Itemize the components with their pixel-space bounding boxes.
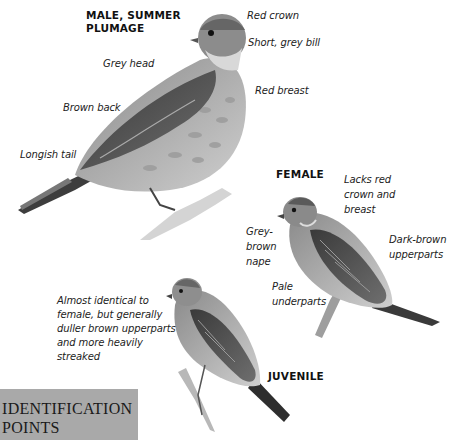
female-heading: FEMALE: [276, 168, 324, 181]
male-heading-line2: PLUMAGE: [86, 22, 144, 35]
identification-title-line2: POINTS: [2, 418, 132, 437]
juvenile-description-line3: duller brown upperparts: [57, 321, 176, 336]
juvenile-heading: JUVENILE: [268, 370, 324, 383]
label-brown-back: Brown back: [63, 100, 121, 115]
label-lacks-red-line1: Lacks red: [344, 172, 391, 187]
label-nape-line2: brown: [246, 239, 277, 254]
female-bird-illustration: [277, 197, 440, 338]
label-dark-brown-line2: upperparts: [389, 247, 443, 262]
male-heading-line1: MALE, SUMMER: [86, 9, 181, 22]
label-nape-line1: Grey-: [246, 224, 273, 239]
male-bird-illustration: [18, 14, 246, 240]
label-red-breast: Red breast: [255, 83, 309, 98]
label-short-grey-bill: Short, grey bill: [248, 35, 320, 50]
identification-points-box: IDENTIFICATION POINTS: [0, 389, 138, 440]
identification-title-line1: IDENTIFICATION: [2, 399, 132, 418]
label-lacks-red-line3: breast: [344, 202, 375, 217]
label-grey-head: Grey head: [103, 56, 154, 71]
juvenile-description-line1: Almost identical to: [57, 293, 149, 308]
label-dark-brown-line1: Dark-brown: [389, 232, 446, 247]
label-longish-tail: Longish tail: [20, 147, 76, 162]
juvenile-description-line4: and more heavily: [57, 335, 143, 350]
juvenile-description-line5: streaked: [57, 349, 100, 364]
label-red-crown: Red crown: [247, 8, 299, 23]
identification-points-title: IDENTIFICATION POINTS: [2, 399, 132, 437]
label-lacks-red-line2: crown and: [344, 187, 395, 202]
label-nape-line3: nape: [246, 254, 271, 269]
label-pale-underparts-line1: Pale: [272, 279, 293, 294]
juvenile-description-line2: female, but generally: [57, 307, 162, 322]
bird-illustrations: [0, 0, 449, 440]
label-pale-underparts-line2: underparts: [272, 294, 326, 309]
